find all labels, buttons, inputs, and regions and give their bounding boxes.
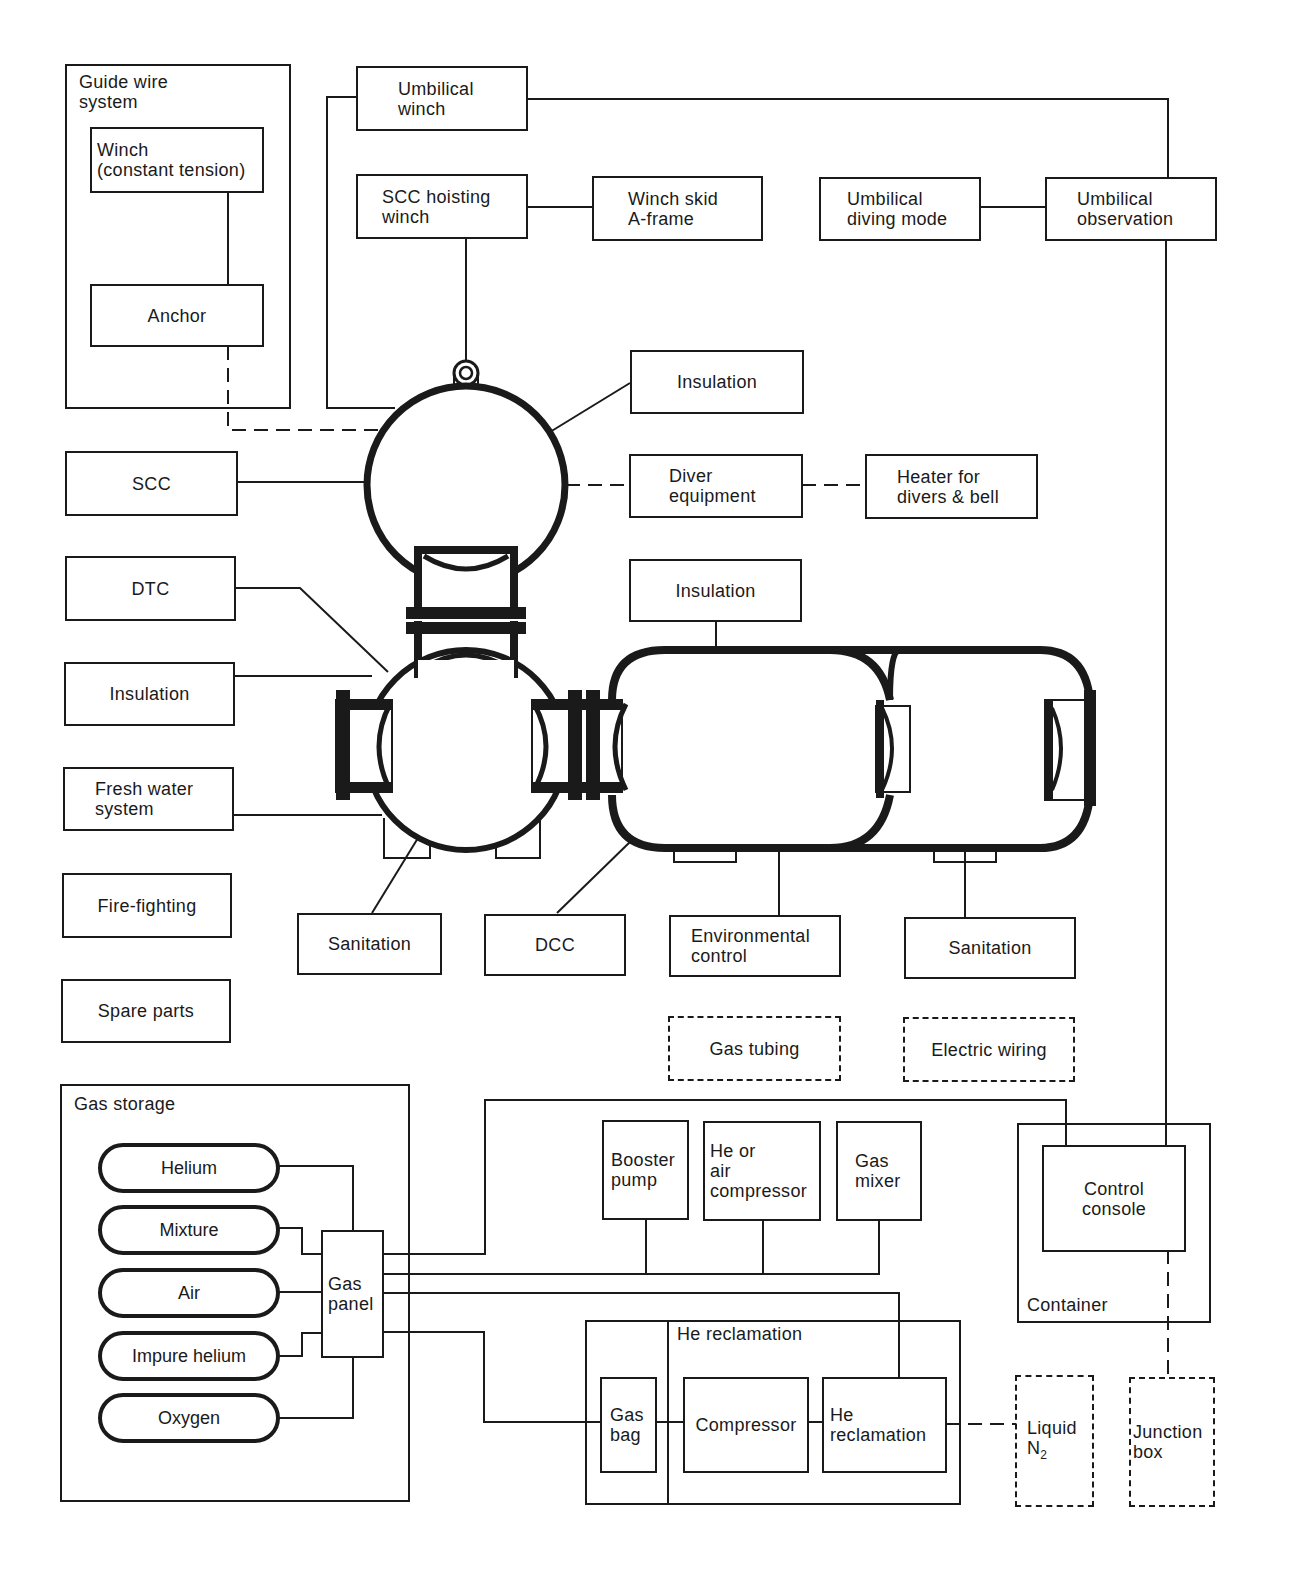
gas-panel-box[interactable]: Gas panel [321, 1230, 384, 1358]
anchor-box[interactable]: Anchor [90, 284, 264, 347]
container-label: Container [1027, 1295, 1108, 1315]
scc-hoisting-winch-box[interactable]: SCC hoisting winch [356, 174, 528, 239]
environmental-control-box[interactable]: Environmental control [669, 915, 841, 977]
sanitation-dcc-box[interactable]: Sanitation [904, 917, 1076, 979]
umbilical-winch-box[interactable]: Umbilical winch [356, 66, 528, 131]
winch-skid-a-frame-box[interactable]: Winch skid A-frame [592, 176, 763, 241]
insulation-dtc-box[interactable]: Insulation [64, 662, 235, 726]
control-console-box[interactable]: Control console [1042, 1145, 1186, 1252]
gas-bottle-air[interactable]: Air [98, 1268, 280, 1318]
he-reclamation-unit-box[interactable]: He reclamation [822, 1377, 947, 1473]
diver-equipment-box[interactable]: Diver equipment [629, 454, 803, 518]
gas-bottle-oxygen[interactable]: Oxygen [98, 1393, 280, 1443]
insulation-dcc-box[interactable]: Insulation [629, 559, 802, 622]
liquid-n2-box[interactable]: Liquid N2 [1015, 1375, 1094, 1507]
diving-system-diagram: Guide wire system Winch (constant tensio… [0, 0, 1297, 1586]
he-reclamation-label: He reclamation [677, 1324, 802, 1344]
guide-wire-system-group: Guide wire system [65, 64, 291, 409]
gas-bag-box[interactable]: Gas bag [600, 1377, 657, 1473]
fire-fighting-box[interactable]: Fire-fighting [62, 873, 232, 938]
gas-storage-label: Gas storage [74, 1094, 175, 1114]
compressor-box[interactable]: Compressor [683, 1377, 809, 1473]
spare-parts-box[interactable]: Spare parts [61, 979, 231, 1043]
junction-box[interactable]: Junction box [1129, 1377, 1215, 1507]
gas-mixer-box[interactable]: Gas mixer [836, 1121, 922, 1221]
booster-pump-box[interactable]: Booster pump [602, 1120, 689, 1220]
guide-wire-system-label: Guide wire system [79, 72, 168, 112]
gas-bottle-impure-helium[interactable]: Impure helium [98, 1331, 280, 1381]
dcc-box[interactable]: DCC [484, 914, 626, 976]
insulation-scc-box[interactable]: Insulation [630, 350, 804, 414]
gas-bottle-mixture[interactable]: Mixture [98, 1205, 280, 1255]
dtc-box[interactable]: DTC [65, 556, 236, 621]
heater-divers-bell-box[interactable]: Heater for divers & bell [865, 454, 1038, 519]
fresh-water-system-box[interactable]: Fresh water system [63, 767, 234, 831]
sanitation-dtc-box[interactable]: Sanitation [297, 913, 442, 975]
umbilical-observation-box[interactable]: Umbilical observation [1045, 177, 1217, 241]
winch-constant-tension-box[interactable]: Winch (constant tension) [90, 127, 264, 193]
umbilical-diving-mode-box[interactable]: Umbilical diving mode [819, 177, 981, 241]
gas-tubing-box[interactable]: Gas tubing [668, 1016, 841, 1081]
he-air-compressor-box[interactable]: He or air compressor [703, 1121, 821, 1221]
gas-bottle-helium[interactable]: Helium [98, 1143, 280, 1193]
scc-box[interactable]: SCC [65, 451, 238, 516]
electric-wiring-box[interactable]: Electric wiring [903, 1017, 1075, 1082]
